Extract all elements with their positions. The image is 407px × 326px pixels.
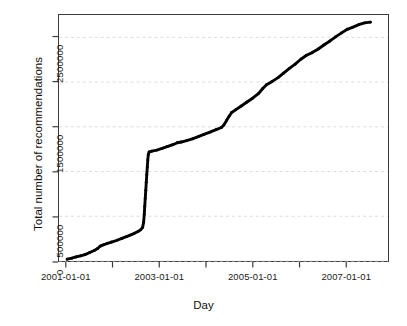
y-tick-label: 500000 xyxy=(54,215,65,274)
x-tick-label: 2005-01-01 xyxy=(213,271,293,282)
x-tick-label: 2007-01-01 xyxy=(306,271,386,282)
x-tick-label: 2001-01-01 xyxy=(26,271,106,282)
y-tick-label: 1500000 xyxy=(54,125,65,184)
chart-container: 050000015000002500000 2001-01-012003-01-… xyxy=(0,0,407,326)
y-axis-title: Total number of recommendations xyxy=(32,44,44,244)
x-tick-label: 2003-01-01 xyxy=(119,271,199,282)
x-axis-title: Day xyxy=(0,299,407,311)
y-tick-label: 2500000 xyxy=(54,35,65,94)
